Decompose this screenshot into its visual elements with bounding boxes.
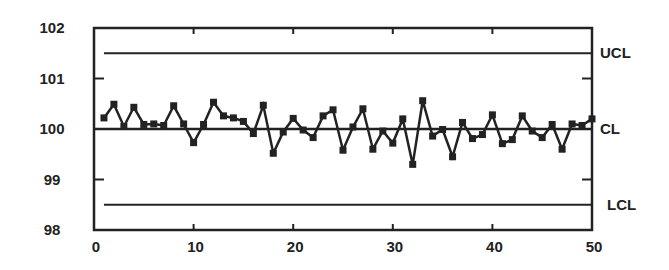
control-limit-labels: UCLCLLCL — [600, 44, 636, 213]
data-point-marker — [529, 128, 536, 135]
x-tick-label: 40 — [486, 238, 503, 255]
data-point-marker — [459, 119, 466, 126]
data-point-marker — [230, 114, 237, 121]
data-point-marker — [150, 120, 157, 127]
data-point-marker — [340, 147, 347, 154]
series-line — [104, 101, 592, 165]
x-tick-label: 10 — [187, 238, 204, 255]
data-point-marker — [409, 161, 416, 168]
data-point-marker — [489, 111, 496, 118]
data-point-marker — [399, 115, 406, 122]
data-point-marker — [549, 121, 556, 128]
data-point-marker — [389, 140, 396, 147]
data-point-marker — [300, 127, 307, 134]
data-point-marker — [280, 129, 287, 136]
data-point-marker — [379, 128, 386, 135]
data-point-marker — [559, 146, 566, 153]
data-point-marker — [589, 115, 596, 122]
data-point-marker — [449, 153, 456, 160]
data-point-marker — [100, 114, 107, 121]
data-point-marker — [320, 112, 327, 119]
data-point-marker — [419, 97, 426, 104]
data-point-marker — [220, 112, 227, 119]
data-point-marker — [210, 99, 217, 106]
data-point-marker — [140, 121, 147, 128]
data-point-marker — [429, 133, 436, 140]
data-point-marker — [479, 131, 486, 138]
control-chart: 9899100101102 01020304050 UCLCLLCL — [0, 0, 669, 270]
cl-label: CL — [600, 120, 620, 137]
data-point-marker — [439, 126, 446, 133]
y-tick-label: 101 — [39, 70, 64, 87]
data-point-marker — [519, 112, 526, 119]
data-point-marker — [359, 105, 366, 112]
x-tick-label: 30 — [386, 238, 403, 255]
data-point-marker — [290, 115, 297, 122]
x-tick-label: 20 — [287, 238, 304, 255]
data-point-marker — [310, 134, 317, 141]
y-tick-label: 102 — [39, 19, 64, 36]
y-tick-label: 100 — [39, 120, 64, 137]
ucl-label: UCL — [600, 44, 631, 61]
data-point-marker — [170, 102, 177, 109]
data-point-marker — [120, 123, 127, 130]
data-point-marker — [499, 140, 506, 147]
data-point-marker — [579, 122, 586, 129]
data-point-marker — [539, 134, 546, 141]
data-point-marker — [349, 123, 356, 130]
y-tick-label: 98 — [44, 221, 61, 238]
x-tick-label: 0 — [92, 238, 100, 255]
data-point-marker — [569, 120, 576, 127]
data-point-marker — [190, 139, 197, 146]
data-point-marker — [469, 135, 476, 142]
data-point-marker — [369, 146, 376, 153]
data-point-marker — [110, 101, 117, 108]
data-point-marker — [180, 120, 187, 127]
data-point-marker — [160, 122, 167, 129]
data-point-marker — [270, 150, 277, 157]
data-point-marker — [330, 106, 337, 113]
data-point-marker — [130, 104, 137, 111]
y-tick-label: 99 — [44, 171, 61, 188]
data-series — [100, 97, 595, 168]
x-tick-label: 50 — [586, 238, 603, 255]
data-point-marker — [200, 121, 207, 128]
data-point-marker — [240, 118, 247, 125]
data-point-marker — [250, 130, 257, 137]
lcl-label: LCL — [607, 196, 636, 213]
data-point-marker — [260, 102, 267, 109]
data-point-marker — [509, 136, 516, 143]
